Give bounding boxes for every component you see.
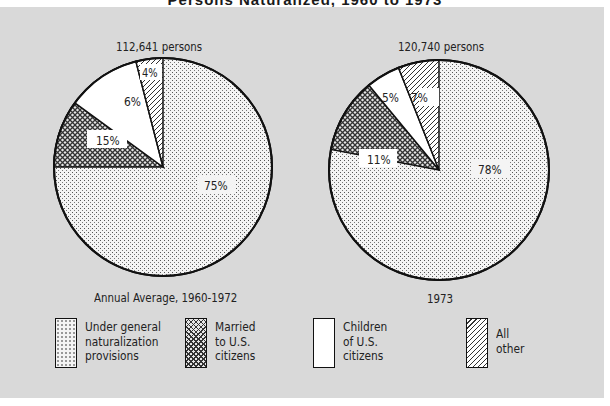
dots-pattern-swatch-icon xyxy=(55,318,77,368)
label-married-left: 15% xyxy=(96,133,120,148)
crosshatch-pattern-swatch-icon xyxy=(185,318,207,368)
legend-line: naturalization xyxy=(85,335,161,350)
blank-pattern-swatch-icon xyxy=(313,318,335,368)
legend-line: Married xyxy=(215,320,255,335)
legend-line: to U.S. xyxy=(215,335,255,350)
label-children-left: 6% xyxy=(124,94,141,109)
label-all-other-right: 7% xyxy=(411,90,428,105)
legend-line: Under general xyxy=(85,320,161,335)
label-children-right: 5% xyxy=(382,90,399,105)
legend-line: Children xyxy=(343,320,387,335)
diagonal-pattern-swatch-icon xyxy=(466,318,488,368)
legend-line: citizens xyxy=(215,349,255,364)
label-under-general-right: 78% xyxy=(478,162,502,177)
legend-line: citizens xyxy=(343,349,387,364)
legend-line: provisions xyxy=(85,349,161,364)
right-pie-caption: 1973 xyxy=(427,291,453,306)
left-pie-caption: Annual Average, 1960-1972 xyxy=(94,290,237,305)
left-pie-total: 112,641 persons xyxy=(116,39,202,54)
label-all-other-left: 4% xyxy=(142,66,158,80)
label-under-general-left: 75% xyxy=(204,178,228,193)
legend-line: All xyxy=(496,327,524,342)
left-pie xyxy=(54,58,272,276)
right-pie-total: 120,740 persons xyxy=(398,39,484,54)
legend-line: of U.S. xyxy=(343,335,387,350)
legend-line: other xyxy=(496,342,524,357)
label-married-right: 11% xyxy=(367,152,391,167)
